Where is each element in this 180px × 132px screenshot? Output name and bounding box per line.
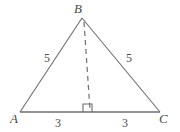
side-length-label-right: 5 [126, 52, 132, 64]
vertex-label-c: C [159, 112, 168, 125]
side-bc-line [82, 18, 160, 112]
base-length-label-left: 3 [55, 117, 61, 129]
triangle-drawing [0, 0, 180, 132]
vertex-label-b: B [74, 2, 82, 15]
side-length-label-left: 5 [44, 52, 50, 64]
altitude-dashed-line [84, 22, 90, 110]
geometry-figure: B A C 5 5 3 3 [0, 0, 180, 132]
base-length-label-right: 3 [122, 117, 128, 129]
side-ab-line [20, 18, 82, 112]
vertex-label-a: A [10, 112, 18, 125]
right-angle-marker-icon [83, 104, 92, 112]
